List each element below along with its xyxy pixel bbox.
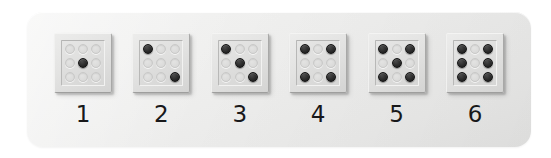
die-cell-3[interactable]: 3 (209, 33, 271, 126)
pip-empty-4-3 (300, 58, 310, 68)
pip-filled-6-0 (457, 44, 467, 54)
pip-empty-1-5 (91, 58, 101, 68)
pip-empty-4-1 (313, 44, 323, 54)
die-cell-2[interactable]: 2 (130, 33, 192, 126)
pip-filled-4-6 (300, 72, 310, 82)
pip-filled-6-6 (457, 72, 467, 82)
pip-empty-1-3 (65, 58, 75, 68)
pip-empty-1-6 (65, 72, 75, 82)
pip-empty-2-7 (156, 72, 166, 82)
pip-filled-4-2 (326, 44, 336, 54)
pip-filled-5-2 (405, 44, 415, 54)
die-six[interactable] (446, 33, 504, 93)
dice-scene: 123456 (0, 0, 551, 158)
pip-filled-3-0 (221, 44, 231, 54)
pip-filled-4-8 (326, 72, 336, 82)
die-label-4: 4 (311, 103, 326, 126)
pip-empty-2-4 (156, 58, 166, 68)
pip-filled-6-3 (457, 58, 467, 68)
pip-empty-3-6 (221, 72, 231, 82)
pip-empty-5-5 (405, 58, 415, 68)
pip-empty-3-1 (235, 44, 245, 54)
die-face-4 (296, 40, 340, 86)
pip-empty-4-5 (326, 58, 336, 68)
die-two[interactable] (132, 33, 190, 93)
pip-empty-6-1 (470, 44, 480, 54)
pip-empty-1-8 (91, 72, 101, 82)
pip-empty-1-2 (91, 44, 101, 54)
die-cell-6[interactable]: 6 (444, 33, 506, 126)
pip-empty-3-3 (221, 58, 231, 68)
pip-empty-4-4 (313, 58, 323, 68)
die-face-1 (61, 40, 105, 86)
pip-empty-3-7 (235, 72, 245, 82)
pip-empty-1-0 (65, 44, 75, 54)
pip-empty-1-7 (78, 72, 88, 82)
pip-empty-3-5 (248, 58, 258, 68)
die-face-6 (453, 40, 497, 86)
die-label-1: 1 (76, 103, 91, 126)
pip-empty-5-3 (378, 58, 388, 68)
pip-empty-2-3 (143, 58, 153, 68)
die-label-2: 2 (154, 103, 169, 126)
die-label-6: 6 (468, 103, 483, 126)
pip-filled-5-0 (378, 44, 388, 54)
pip-filled-4-0 (300, 44, 310, 54)
pip-empty-2-5 (170, 58, 180, 68)
pip-filled-2-8 (170, 72, 180, 82)
pip-empty-2-1 (156, 44, 166, 54)
pip-empty-5-7 (392, 72, 402, 82)
die-cell-4[interactable]: 4 (287, 33, 349, 126)
pip-filled-3-4 (235, 58, 245, 68)
pip-empty-3-2 (248, 44, 258, 54)
pip-filled-1-4 (78, 58, 88, 68)
die-face-2 (139, 40, 183, 86)
die-label-5: 5 (389, 103, 404, 126)
die-cell-1[interactable]: 1 (52, 33, 114, 126)
pip-filled-3-8 (248, 72, 258, 82)
die-face-5 (375, 40, 419, 86)
die-label-3: 3 (232, 103, 247, 126)
die-three[interactable] (211, 33, 269, 93)
die-face-3 (218, 40, 262, 86)
pip-empty-6-7 (470, 72, 480, 82)
pip-filled-5-8 (405, 72, 415, 82)
pip-filled-6-2 (483, 44, 493, 54)
die-five[interactable] (368, 33, 426, 93)
pip-filled-6-5 (483, 58, 493, 68)
pip-filled-2-0 (143, 44, 153, 54)
pip-empty-6-4 (470, 58, 480, 68)
dice-row: 123456 (27, 12, 531, 147)
pip-empty-5-1 (392, 44, 402, 54)
die-one[interactable] (54, 33, 112, 93)
pip-empty-1-1 (78, 44, 88, 54)
pip-empty-4-7 (313, 72, 323, 82)
pip-filled-6-8 (483, 72, 493, 82)
pip-filled-5-4 (392, 58, 402, 68)
die-cell-5[interactable]: 5 (366, 33, 428, 126)
pip-empty-2-2 (170, 44, 180, 54)
die-four[interactable] (289, 33, 347, 93)
pip-filled-5-6 (378, 72, 388, 82)
pip-empty-2-6 (143, 72, 153, 82)
